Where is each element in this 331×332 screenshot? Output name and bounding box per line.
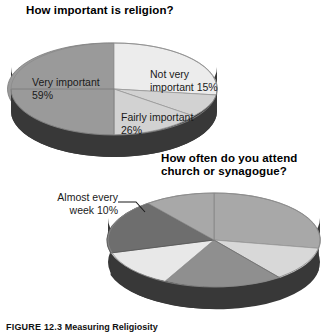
slice-label-fairly-important: Fairly important 26% — [121, 111, 193, 136]
figure-caption: FIGURE 12.3 Measuring Religiosity — [6, 322, 326, 332]
chart-title-attendance: How often do you attend church or synago… — [161, 152, 297, 178]
pie-attendance-svg — [104, 178, 331, 324]
pie-chart-religion: Very important 59% Not very important 15… — [4, 18, 228, 160]
figure-religiosity: How important is religion? — [0, 0, 331, 332]
slice-label-almost-every-week: Almost every week 10% — [56, 191, 118, 216]
slice-label-not-very-important: Not very important 15% — [150, 68, 218, 93]
slice-label-very-important: Very important 59% — [32, 76, 100, 101]
pie-chart-attendance: At least once a week 34% Never 13% Seldo… — [104, 178, 331, 324]
chart-title-religion: How important is religion? — [26, 4, 174, 17]
slice-at-least-once-a-week[interactable] — [214, 193, 320, 248]
figure-caption-label: FIGURE 12.3 — [6, 322, 62, 332]
figure-caption-text: Measuring Religiosity — [65, 322, 158, 332]
